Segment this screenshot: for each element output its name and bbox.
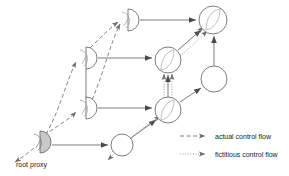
legend-label-fictitious: fictitious control flow	[215, 151, 279, 158]
actual-pupper-ptop	[90, 22, 118, 48]
legend: actual control flow fictitious control f…	[180, 133, 279, 158]
node-group	[34, 6, 227, 156]
node-c-right[interactable]	[201, 66, 227, 92]
node-c-bottom[interactable]	[111, 134, 133, 156]
edge-clow-cright	[180, 88, 201, 102]
actual-proot-outside	[15, 148, 34, 162]
diagram-canvas: actual control flow fictitious control f…	[0, 0, 289, 176]
actual-proot-pupper	[46, 62, 76, 134]
actual-proot-plower	[44, 112, 76, 135]
node-p-root[interactable]	[34, 131, 51, 153]
flow-group-actual	[15, 22, 120, 162]
node-p-top[interactable]	[122, 9, 139, 31]
node-c-mid[interactable]	[155, 47, 181, 73]
edge-group-solid	[52, 20, 214, 145]
node-p-upper[interactable]	[80, 47, 97, 69]
node-c-topright[interactable]	[199, 6, 227, 34]
fict-cmid-ctopright-b	[180, 31, 207, 56]
node-p-lower[interactable]	[80, 97, 97, 119]
node-c-low[interactable]	[155, 97, 181, 123]
root-proxy-label: root proxy	[16, 161, 48, 169]
legend-label-actual: actual control flow	[215, 133, 272, 140]
diagram-svg: actual control flow fictitious control f…	[0, 0, 289, 176]
